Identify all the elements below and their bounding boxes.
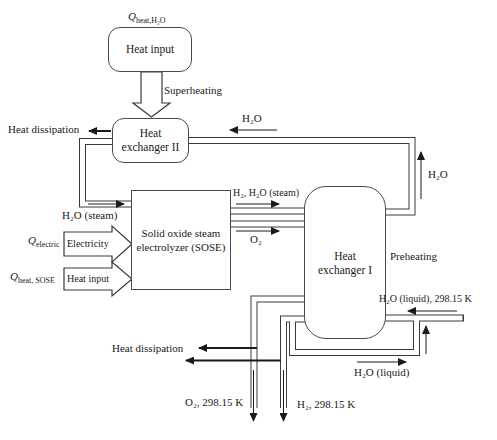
o2-label: O₂ <box>250 233 262 245</box>
heat-input-box: Heat input <box>108 27 192 72</box>
q-electric-label: Qelectric <box>28 234 60 249</box>
heat-exchanger-2-box: Heat exchanger II <box>112 118 189 163</box>
hx1-label-line2: exchanger I <box>305 263 385 277</box>
q-heat-h2o-label: Qheat,H₂O <box>128 10 166 25</box>
heat-dissipation-top-label: Heat dissipation <box>8 123 79 135</box>
sose-label-line2: electrolyzer (SOSE) <box>132 241 230 255</box>
h2o-liquid-inlet-label: H₂O (liquid), 298.15 K <box>379 293 472 304</box>
q-heat-h2o-symbol: Q <box>128 10 136 22</box>
preheating-label: Preheating <box>390 250 437 262</box>
electricity-label: Electricity <box>67 238 109 249</box>
q-heat-h2o-subscript: heat,H₂O <box>136 16 166 25</box>
hx1-label-line1: Heat <box>305 249 385 263</box>
sose-box: Solid oxide steam electrolyzer (SOSE) <box>131 190 231 290</box>
q-heat-sose-label: Qheat, SOSE <box>10 270 55 285</box>
hx2-label-line2: exchanger II <box>113 140 188 154</box>
h2o-steam-label: H₂O (steam) <box>62 209 117 221</box>
q-heat-sose-subscript: heat, SOSE <box>18 276 55 285</box>
sose-label-line1: Solid oxide steam <box>132 227 230 241</box>
q-electric-subscript: electric <box>36 240 60 249</box>
h2-outlet-label: H₂, 298.15 K <box>297 398 355 410</box>
hx2-label-line1: Heat <box>113 126 188 140</box>
superheating-label: Superheating <box>164 84 222 96</box>
o2-outlet-label: O₂, 298.15 K <box>185 396 243 408</box>
q-heat-sose-symbol: Q <box>10 270 18 282</box>
heat-input-box-label: Heat input <box>126 43 174 55</box>
h2o-liquid-label: H₂O (liquid) <box>354 366 409 378</box>
q-electric-symbol: Q <box>28 234 36 246</box>
heat-input-arrow-label: Heat input <box>67 273 109 284</box>
h2o-right-label: H₂O <box>428 168 448 180</box>
h2o-top-label: H₂O <box>242 112 262 124</box>
heat-exchanger-1-box: Heat exchanger I <box>304 186 386 339</box>
sose-system-flow-diagram: Heat input Heat exchanger II Solid oxide… <box>0 0 497 440</box>
h2-h2o-steam-label: H₂, H₂O (steam) <box>233 187 299 198</box>
heat-dissipation-bottom-label: Heat dissipation <box>112 342 183 354</box>
